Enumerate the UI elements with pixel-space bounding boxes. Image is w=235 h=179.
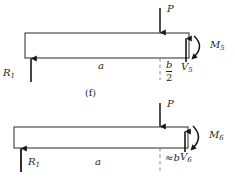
upper-beam-group xyxy=(25,8,200,82)
lower-beam-body xyxy=(14,127,188,148)
upper-span-label: a xyxy=(98,61,104,71)
upper-load-label: P xyxy=(167,4,174,14)
upper-moment-label: M5 xyxy=(210,40,225,50)
lower-moment-label: M6 xyxy=(209,130,224,140)
lower-offset-value: b xyxy=(173,152,179,163)
upper-reaction-label: R1 xyxy=(3,68,15,78)
upper-moment-arc xyxy=(194,36,200,57)
upper-shear-label: V5 xyxy=(181,62,193,72)
upper-beam-body xyxy=(25,33,189,58)
lower-reaction-label: R1 xyxy=(28,157,40,167)
lower-shear-label: V6 xyxy=(180,152,192,162)
figure-caption: (f) xyxy=(85,88,96,98)
lower-offset-label: ≈b xyxy=(165,153,180,163)
upper-offset-numerator: b xyxy=(166,60,172,71)
lower-span-label: a xyxy=(95,157,101,167)
diagram-vectors xyxy=(0,0,235,179)
lower-moment-arc xyxy=(193,126,199,148)
lower-load-label: P xyxy=(167,99,174,109)
figure-canvas: P R1 a b 2 V5 M5 (f) P R1 a ≈b V6 M6 xyxy=(0,0,235,179)
upper-offset-denominator: 2 xyxy=(166,73,172,84)
upper-offset-fraction: b 2 xyxy=(166,60,172,83)
